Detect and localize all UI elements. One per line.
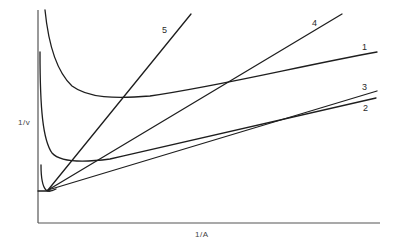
y-axis-label: 1/v [18, 119, 30, 127]
series-4-label: 4 [312, 19, 317, 28]
series-3-label: 3 [362, 83, 367, 92]
series-5-line [48, 14, 191, 190]
series-2-label: 2 [363, 104, 368, 113]
series-4-line [48, 14, 342, 190]
x-axis-label: 1/A [195, 231, 209, 239]
series-3-line [48, 91, 377, 190]
series-1-label: 1 [362, 43, 367, 52]
series-5-label: 5 [162, 26, 167, 35]
plot-area [0, 0, 398, 245]
